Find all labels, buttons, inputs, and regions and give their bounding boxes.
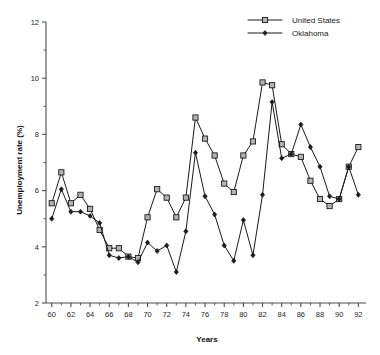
x-tick-label: 68 [124,310,132,319]
chart-figure: 24681012 6062646668707274767880828486889… [0,0,380,355]
data-point-marker-square [116,246,121,251]
x-tick-label: 60 [48,310,56,319]
data-point-marker-square [308,178,313,183]
data-point-marker-square [356,144,361,149]
data-point-marker-square [145,215,150,220]
data-point-marker-square [298,154,303,159]
data-point-marker-square [212,153,217,158]
data-point-marker-square [327,203,332,208]
data-point-marker-square [78,192,83,197]
y-tick-label: 10 [31,74,39,83]
data-point-marker-square [222,181,227,186]
y-tick-label: 2 [35,299,39,308]
x-tick-label: 88 [316,310,324,319]
data-point-marker-square [183,195,188,200]
x-tick-label: 74 [182,310,190,319]
data-point-marker-square [87,206,92,211]
data-point-marker-square [241,153,246,158]
x-tick-label: 70 [143,310,151,319]
data-point-marker-square [49,201,54,206]
x-tick-label: 80 [239,310,247,319]
data-point-marker-square [202,136,207,141]
x-tick-label: 62 [67,310,75,319]
x-tick-label: 72 [163,310,171,319]
data-point-marker-square [155,187,160,192]
y-axis-title: Unemployment rate (%) [15,125,24,215]
legend-label: Oklahoma [292,29,329,38]
data-point-marker-square [250,139,255,144]
x-tick-label: 76 [201,310,209,319]
data-point-marker-square [193,115,198,120]
data-point-marker-square [260,80,265,85]
y-tick-label: 6 [35,186,39,195]
data-point-marker-square [59,170,64,175]
x-tick-label: 66 [105,310,113,319]
x-tick-label: 86 [297,310,305,319]
data-point-marker-square [68,201,73,206]
data-point-marker-square [174,215,179,220]
x-tick-label: 84 [278,310,286,319]
x-tick-label: 92 [354,310,362,319]
data-point-marker-square [317,196,322,201]
y-tick-label: 8 [35,130,39,139]
legend-label: United States [292,16,340,25]
unemployment-line-chart: 24681012 6062646668707274767880828486889… [0,0,380,355]
data-point-marker-square [270,83,275,88]
x-tick-label: 78 [220,310,228,319]
x-axis-title: Years [196,335,218,344]
x-tick-label: 64 [86,310,94,319]
y-tick-label: 4 [35,243,39,252]
data-point-marker-square [164,195,169,200]
x-tick-label: 90 [335,310,343,319]
data-point-marker-square [231,189,236,194]
x-tick-label: 82 [258,310,266,319]
data-point-marker-square [262,17,267,22]
y-tick-label: 12 [31,18,39,27]
